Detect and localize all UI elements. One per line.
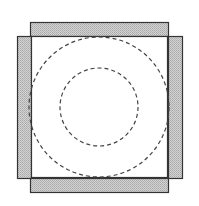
bar-top — [31, 23, 169, 37]
concentric-circles-frame-diagram — [0, 0, 199, 206]
inner-square-frame — [32, 37, 168, 178]
bar-bottom — [31, 179, 169, 193]
bar-right — [169, 37, 183, 179]
hatched-bars — [18, 23, 183, 193]
